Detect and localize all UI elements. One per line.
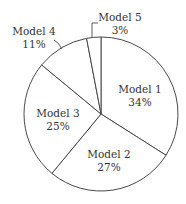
label-model-4-name: Model 4 <box>12 25 56 37</box>
label-model-2-value: 27% <box>97 161 120 173</box>
label-model-3-value: 25% <box>46 120 69 132</box>
label-model-3-name: Model 3 <box>36 107 79 119</box>
label-model-4-value: 11% <box>22 38 45 50</box>
label-model-1-value: 34% <box>128 96 151 108</box>
leader-line-model-5 <box>92 23 98 37</box>
label-model-1-name: Model 1 <box>118 83 161 95</box>
label-model-2-name: Model 2 <box>87 148 130 160</box>
label-model-5-value: 3% <box>112 24 129 36</box>
pie-chart: Model 1 34% Model 2 27% Model 3 25% Mode… <box>0 0 186 204</box>
label-model-5-name: Model 5 <box>98 11 141 23</box>
leader-line-model-4 <box>54 40 62 49</box>
